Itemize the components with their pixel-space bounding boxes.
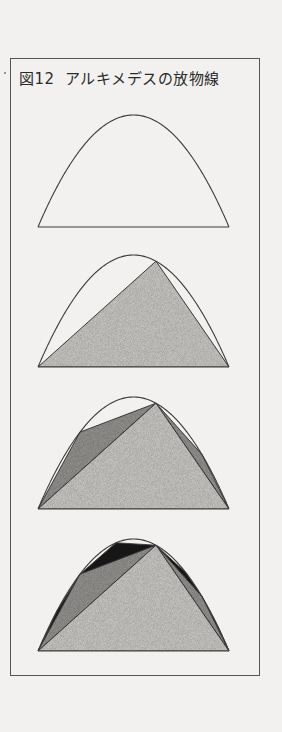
parabola-curve (38, 115, 229, 227)
panel-4 (38, 539, 229, 651)
stage1-triangle (38, 261, 229, 367)
panel-2 (38, 255, 229, 367)
parabola-diagram (0, 0, 282, 732)
panel-3 (38, 397, 229, 509)
panel-1 (38, 115, 229, 227)
